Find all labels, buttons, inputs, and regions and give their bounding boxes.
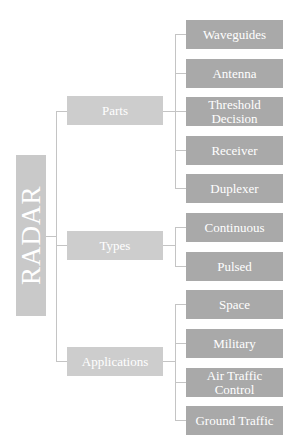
leaf-node-threshold-decision: Threshold Decision [186, 97, 283, 126]
connector-applications-vertical [175, 304, 176, 421]
connector-types-vertical [175, 227, 176, 267]
connector-leaf [175, 34, 186, 35]
connector-leaf [175, 382, 186, 383]
connector-leaf [175, 227, 186, 228]
leaf-label: Waveguides [203, 28, 266, 42]
connector-leaf [175, 111, 186, 112]
leaf-node-space: Space [186, 290, 283, 319]
branch-node-applications: Applications [67, 347, 163, 376]
connector-applications-stub [163, 361, 175, 362]
leaf-label: Air Traffic Control [204, 369, 265, 396]
leaf-label: Duplexer [210, 182, 258, 196]
branch-node-types: Types [67, 231, 163, 260]
branch-node-parts: Parts [67, 96, 163, 125]
leaf-label: Receiver [211, 144, 257, 158]
connector-parts-stub [163, 111, 175, 112]
branch-label: Types [100, 239, 131, 253]
leaf-label: Antenna [212, 67, 256, 81]
root-node-radar: RADAR [16, 155, 46, 316]
connector-leaf [175, 304, 186, 305]
connector-leaf [175, 266, 186, 267]
leaf-node-continuous: Continuous [186, 213, 283, 242]
leaf-node-receiver: Receiver [186, 136, 283, 165]
connector-leaf [175, 420, 186, 421]
root-label: RADAR [17, 186, 45, 286]
connector-leaf [175, 188, 186, 189]
leaf-label: Pulsed [217, 260, 252, 274]
connector-to-parts [56, 111, 67, 112]
leaf-node-military: Military [186, 329, 283, 358]
leaf-node-air-traffic-control: Air Traffic Control [186, 368, 283, 397]
branch-label: Parts [102, 104, 128, 118]
connector-types-stub [163, 245, 175, 246]
leaf-node-duplexer: Duplexer [186, 174, 283, 203]
leaf-node-antenna: Antenna [186, 59, 283, 88]
branch-label: Applications [82, 355, 148, 369]
leaf-node-waveguides: Waveguides [186, 20, 283, 49]
connector-leaf [175, 343, 186, 344]
leaf-label: Continuous [205, 221, 265, 235]
connector-to-types [56, 245, 67, 246]
leaf-label: Military [213, 337, 256, 351]
leaf-node-ground-traffic: Ground Traffic [186, 406, 283, 435]
leaf-label: Space [219, 298, 250, 312]
connector-to-applications [56, 361, 67, 362]
connector-root-stub [46, 236, 56, 237]
leaf-node-pulsed: Pulsed [186, 252, 283, 281]
leaf-label: Threshold Decision [200, 98, 269, 125]
leaf-label: Ground Traffic [195, 414, 273, 428]
connector-leaf [175, 73, 186, 74]
connector-leaf [175, 150, 186, 151]
connector-root-vertical [56, 111, 57, 362]
